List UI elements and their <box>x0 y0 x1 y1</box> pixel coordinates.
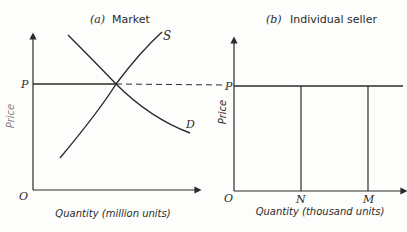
panel-b-origin-label: O <box>224 192 233 205</box>
panel-a-y-axis-label: Price <box>5 104 16 129</box>
panel-market: (a) Market S D P O Price Quantity (milli… <box>5 13 226 219</box>
panel-b-prefix: (b) <box>266 13 282 26</box>
quantity-m-label: M <box>362 193 375 206</box>
panel-a-prefix: (a) <box>90 13 105 26</box>
panel-b-price-label: P <box>224 80 233 93</box>
quantity-n-label: N <box>295 193 306 206</box>
panel-b-title: Individual seller <box>290 13 377 26</box>
market-vs-individual-seller-diagram: (a) Market S D P O Price Quantity (milli… <box>0 0 407 232</box>
panel-a-title: Market <box>112 13 150 26</box>
panel-a-x-axis-label: Quantity (million units) <box>55 208 170 219</box>
panel-a-origin-label: O <box>19 190 28 203</box>
panel-b-x-axis-label: Quantity (thousand units) <box>256 206 385 217</box>
price-projection-dashed-line <box>116 84 226 85</box>
panel-individual-seller: (b) Individual seller P Price O N M Quan… <box>217 13 404 217</box>
supply-label: S <box>163 29 171 43</box>
demand-label: D <box>185 118 195 131</box>
supply-curve <box>60 32 162 158</box>
panel-b-y-axis-label: Price <box>217 100 228 125</box>
panel-a-price-label: P <box>20 78 29 91</box>
